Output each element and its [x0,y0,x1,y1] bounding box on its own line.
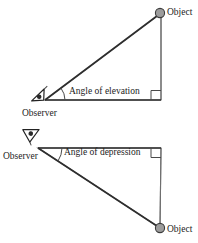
depression-object-dot [155,223,164,232]
elevation-object-dot [155,8,164,17]
elevation-angle-label: Angle of elevation [69,86,140,96]
depression-angle-label: Angle of depression [64,147,141,157]
depression-vertical-edge [160,148,161,228]
depression-observer-label: Observer [3,151,38,161]
depression-object-label: Object [167,224,192,234]
depression-angle-arc [58,148,62,161]
diagram-canvas [0,0,198,243]
observer-eye-icon [20,127,39,147]
depression-right-angle-marker [151,148,161,158]
elevation-object-label: Object [167,7,192,17]
elevation-observer-label: Observer [22,108,57,118]
elevation-right-angle-marker [151,91,161,101]
elevation-angle-arc [61,88,65,100]
depression-hypotenuse [38,148,160,228]
elevation-depression-diagram: Object Angle of elevation Observer Obser… [0,0,198,243]
